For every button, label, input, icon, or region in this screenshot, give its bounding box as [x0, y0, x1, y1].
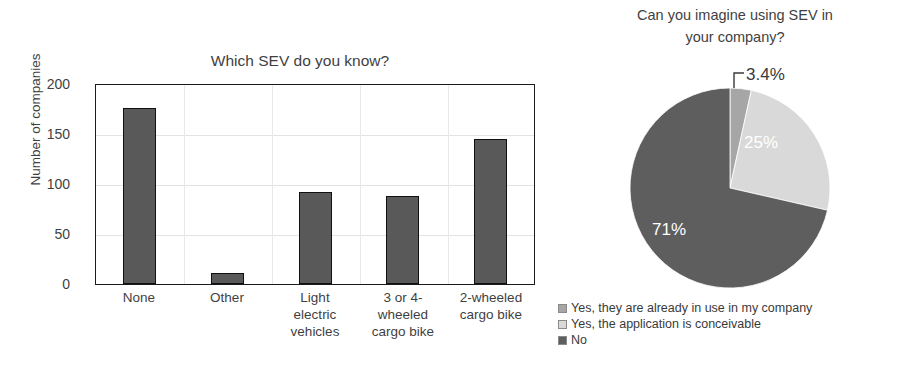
legend-swatch-icon-yes-already-in-use	[558, 304, 567, 313]
x-label-34w-line1: 3 or 4-	[359, 289, 447, 306]
y-tick-0: 0	[62, 277, 70, 291]
pie-chart-figure: Can you imagine using SEV in your compan…	[548, 0, 911, 373]
legend-label-yes-conceivable: Yes, the application is conceivable	[571, 317, 761, 332]
bar-chart-x-axis-labels: None Other Light electric vehicles 3 or …	[95, 289, 535, 369]
x-label-lev-line1: Light	[271, 289, 359, 306]
y-tick-150: 150	[47, 127, 70, 141]
bar-chart-title: Which SEV do you know?	[60, 52, 540, 70]
bar-none	[123, 108, 156, 284]
legend-swatch-icon-no	[558, 336, 567, 345]
pie-slice-label-3-4-percent: 3.4%	[746, 65, 785, 84]
gridline-cat-4	[448, 85, 449, 284]
pie-slice-label-71-percent: 71%	[652, 220, 686, 239]
gridline-cat-1	[184, 85, 185, 284]
x-label-3-or-4-wheeled-cargo-bike: 3 or 4- wheeled cargo bike	[359, 289, 447, 340]
legend-item-yes-conceivable: Yes, the application is conceivable	[558, 317, 908, 333]
x-label-other-line1: Other	[183, 289, 271, 306]
bar-3-or-4-wheeled-cargo-bike	[386, 196, 419, 284]
bar-2-wheeled-cargo-bike	[474, 139, 507, 284]
x-label-2w-line2: cargo bike	[447, 306, 535, 323]
x-label-none-line1: None	[95, 289, 183, 306]
bar-chart-plot-area	[95, 84, 535, 285]
x-label-light-electric-vehicles: Light electric vehicles	[271, 289, 359, 340]
legend-swatch-icon-yes-conceivable	[558, 320, 567, 329]
gridline-150	[96, 135, 534, 136]
legend-label-no: No	[571, 333, 587, 348]
gridline-100	[96, 185, 534, 186]
pie-chart-legend: Yes, they are already in use in my compa…	[558, 301, 908, 349]
pie-callout-leader-line	[734, 73, 744, 88]
legend-item-no: No	[558, 333, 908, 349]
gridline-cat-2	[272, 85, 273, 284]
x-label-2-wheeled-cargo-bike: 2-wheeled cargo bike	[447, 289, 535, 323]
x-label-2w-line1: 2-wheeled	[447, 289, 535, 306]
bar-chart-y-axis-ticks: 200 150 100 50 0	[26, 75, 70, 293]
legend-label-yes-already-in-use: Yes, they are already in use in my compa…	[571, 301, 812, 316]
bar-chart-figure: Which SEV do you know? Number of compani…	[0, 0, 560, 373]
pie-slice-label-25-percent: 25%	[744, 133, 778, 152]
x-label-none: None	[95, 289, 183, 306]
x-label-34w-line3: cargo bike	[359, 323, 447, 340]
y-tick-200: 200	[47, 77, 70, 91]
bar-light-electric-vehicles	[299, 192, 332, 284]
x-label-lev-line2: electric	[271, 306, 359, 323]
gridline-cat-3	[360, 85, 361, 284]
pie-chart-graphic: 3.4% 25% 71%	[548, 0, 911, 300]
x-label-34w-line2: wheeled	[359, 306, 447, 323]
bar-other	[211, 273, 244, 284]
legend-item-yes-already-in-use: Yes, they are already in use in my compa…	[558, 301, 908, 317]
x-label-other: Other	[183, 289, 271, 306]
y-tick-100: 100	[47, 177, 70, 191]
x-label-lev-line3: vehicles	[271, 323, 359, 340]
y-tick-50: 50	[54, 227, 70, 241]
